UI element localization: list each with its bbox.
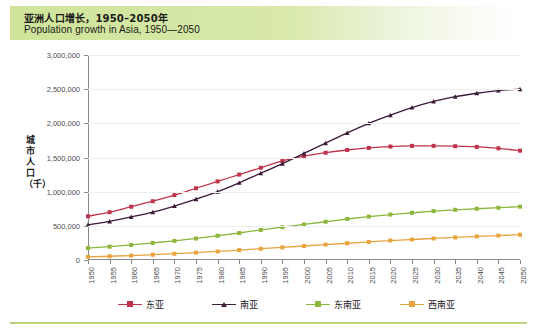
series-marker <box>86 255 90 259</box>
y-axis-tick-label: 2,500,000 <box>47 85 80 94</box>
legend-swatch-icon <box>306 300 330 309</box>
series-marker <box>475 234 479 238</box>
series-marker <box>453 208 457 212</box>
x-axis-tick <box>261 260 262 264</box>
x-axis-tick-label: 1985 <box>238 267 247 284</box>
series-marker <box>194 251 198 255</box>
x-axis-tick-label: 1970 <box>173 267 182 284</box>
series-marker <box>367 215 371 219</box>
y-axis-title: 城市人口（千） <box>24 135 37 190</box>
y-axis-tick-label: 1,000,000 <box>47 187 80 196</box>
series-marker <box>259 228 263 232</box>
series-marker <box>237 248 241 252</box>
x-axis-tick-label: 2040 <box>475 267 484 284</box>
legend-label: 东亚 <box>146 298 164 311</box>
x-axis-tick-label: 2035 <box>454 267 463 284</box>
x-axis-tick <box>369 260 370 264</box>
series-marker <box>324 220 328 224</box>
series-marker <box>518 205 522 209</box>
x-axis-tick <box>390 260 391 264</box>
x-axis-tick-label: 1965 <box>151 267 160 284</box>
x-axis-tick-label: 1980 <box>216 267 225 284</box>
x-axis-tick <box>412 260 413 264</box>
legend-item-4[interactable]: 西南亚 <box>400 296 455 312</box>
series-marker <box>172 239 176 243</box>
gridline <box>88 55 520 56</box>
x-axis-tick <box>326 260 327 264</box>
series-marker <box>496 146 500 150</box>
series-marker <box>151 199 155 203</box>
x-axis-tick <box>477 260 478 264</box>
x-axis-tick-label: 2000 <box>303 267 312 284</box>
legend-item-3[interactable]: 东南亚 <box>306 296 361 312</box>
series-marker <box>345 241 349 245</box>
series-marker <box>388 145 392 149</box>
series-marker <box>216 234 220 238</box>
series-marker <box>388 213 392 217</box>
series-marker <box>410 144 414 148</box>
x-axis-tick-label: 1975 <box>195 267 204 284</box>
legend-item-2[interactable]: 南亚 <box>212 296 258 312</box>
legend-swatch-icon <box>400 300 424 309</box>
x-axis-tick-label: 2030 <box>432 267 441 284</box>
x-axis-tick <box>498 260 499 264</box>
series-marker <box>86 214 90 218</box>
series-marker <box>453 144 457 148</box>
series-marker <box>367 146 371 150</box>
x-axis-tick <box>455 260 456 264</box>
series-marker <box>237 231 241 235</box>
x-axis-tick <box>88 260 89 264</box>
series-marker <box>367 240 371 244</box>
series-marker <box>496 206 500 210</box>
series-marker <box>259 247 263 251</box>
gridline <box>88 192 520 193</box>
x-axis-tick <box>218 260 219 264</box>
page-title-en: Population growth in Asia, 1950—2050 <box>24 24 200 35</box>
y-axis-tick <box>84 123 88 124</box>
x-axis-tick-label: 1995 <box>281 267 290 284</box>
series-marker <box>453 235 457 239</box>
x-axis-tick-label: 1950 <box>87 267 96 284</box>
plot-area: 3,000,0002,500,0002,000,0001,500,0001,00… <box>88 55 520 260</box>
series-marker <box>475 207 479 211</box>
series-marker <box>194 236 198 240</box>
legend-swatch-icon <box>118 300 142 309</box>
series-marker <box>410 238 414 242</box>
x-axis-tick-label: 2045 <box>497 267 506 284</box>
x-axis-tick <box>304 260 305 264</box>
series-marker <box>324 151 328 155</box>
x-axis-tick <box>174 260 175 264</box>
x-axis-tick-label: 2020 <box>389 267 398 284</box>
y-axis-tick-label: 500,000 <box>53 221 80 230</box>
x-axis-tick <box>282 260 283 264</box>
series-marker <box>86 246 90 250</box>
x-axis-tick-label: 2050 <box>519 267 528 284</box>
legend-label: 东南亚 <box>334 298 361 311</box>
x-axis-tick <box>434 260 435 264</box>
y-axis-tick <box>84 226 88 227</box>
series-marker <box>108 245 112 249</box>
x-axis-tick <box>196 260 197 264</box>
footer-divider <box>10 322 527 324</box>
series-marker <box>129 254 133 258</box>
series-marker <box>324 243 328 247</box>
series-marker <box>432 209 436 213</box>
x-axis-tick-label: 2010 <box>346 267 355 284</box>
series-marker <box>302 244 306 248</box>
y-axis-tick <box>84 89 88 90</box>
x-axis-tick <box>110 260 111 264</box>
x-axis-tick <box>520 260 521 264</box>
series-marker <box>410 211 414 215</box>
series-marker <box>129 205 133 209</box>
series-marker <box>172 252 176 256</box>
x-axis-tick-label: 1990 <box>259 267 268 284</box>
page-title-cn: 亚洲人口增长，1950–2050年 <box>24 10 168 25</box>
series-marker <box>496 234 500 238</box>
gridline <box>88 123 520 124</box>
legend-item-1[interactable]: 东亚 <box>118 296 164 312</box>
x-axis-tick-label: 2015 <box>367 267 376 284</box>
series-marker <box>129 243 133 247</box>
series-marker <box>151 253 155 257</box>
series-marker <box>475 145 479 149</box>
x-axis-tick-label: 2025 <box>411 267 420 284</box>
